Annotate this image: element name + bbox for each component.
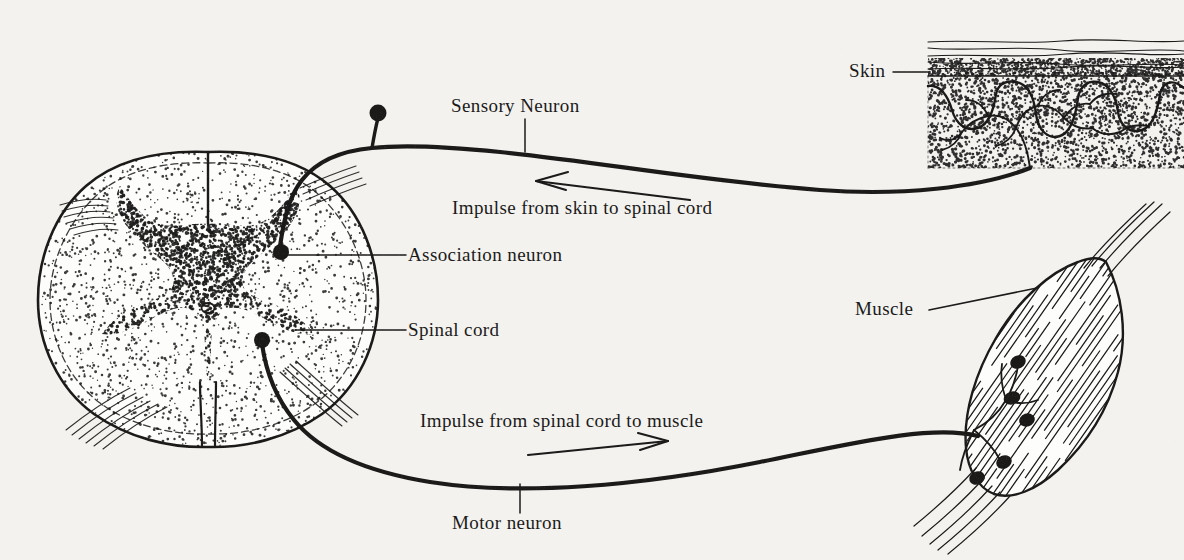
label-skin: Skin bbox=[849, 61, 885, 80]
impulse-arrow-in bbox=[536, 172, 690, 200]
dorsal-root-ganglion-cell-body bbox=[370, 105, 387, 122]
figure-canvas: Sensory Neuron Impulse from skin to spin… bbox=[0, 0, 1184, 560]
label-muscle: Muscle bbox=[855, 299, 913, 318]
label-motor-neuron: Motor neuron bbox=[452, 513, 562, 532]
muscle-bundle bbox=[914, 202, 1170, 554]
label-association-neuron: Association neuron bbox=[408, 245, 562, 264]
label-impulse-out: Impulse from spinal cord to muscle bbox=[420, 411, 703, 430]
reflex-arc-illustration bbox=[0, 0, 1184, 560]
association-neuron-cell-body bbox=[273, 244, 289, 260]
sensory-neuron-path bbox=[280, 118, 1030, 246]
label-spinal-cord: Spinal cord bbox=[408, 320, 499, 339]
impulse-arrow-out bbox=[528, 433, 668, 455]
label-sensory-neuron: Sensory Neuron bbox=[451, 96, 580, 115]
label-impulse-in: Impulse from skin to spinal cord bbox=[452, 198, 712, 217]
